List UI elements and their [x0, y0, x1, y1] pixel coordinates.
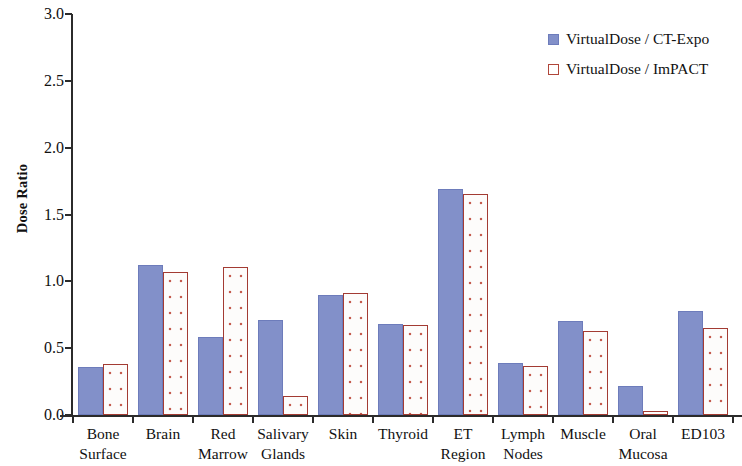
x-tick-label-line2: Mucosa — [605, 444, 681, 464]
x-tick-mark — [192, 415, 194, 423]
x-tick-label-line1: Muscle — [560, 425, 606, 442]
bar-group — [433, 14, 493, 415]
bar-series-ct-expo — [498, 363, 523, 415]
bar-series-ct-expo — [678, 311, 703, 415]
bar-series-ct-expo — [318, 295, 343, 415]
x-tick-mark — [132, 415, 134, 423]
bar-series-impact — [583, 331, 608, 415]
bar-series-impact — [223, 267, 248, 415]
x-tick-mark — [252, 415, 254, 423]
x-tick-mark — [72, 415, 74, 423]
bar-series-ct-expo — [78, 367, 103, 415]
y-tick-mark — [65, 13, 72, 15]
y-tick-label: 0.5 — [20, 340, 64, 356]
y-axis-tick-labels: 0.00.51.01.52.02.53.0 — [20, 0, 64, 466]
x-tick-label-line2: Surface — [65, 444, 141, 464]
bar-series-ct-expo — [198, 337, 223, 415]
bar-pair — [433, 14, 493, 415]
bar-group — [373, 14, 433, 415]
y-tick-mark — [65, 80, 72, 82]
bar-series-ct-expo — [378, 324, 403, 415]
x-tick-mark — [432, 415, 434, 423]
y-tick-mark — [65, 414, 72, 416]
bar-series-impact — [463, 194, 488, 415]
bar-pair — [73, 14, 133, 415]
y-tick-mark — [65, 147, 72, 149]
x-tick-mark — [552, 415, 554, 423]
bar-series-impact — [163, 272, 188, 415]
bar-group — [193, 14, 253, 415]
bar-series-ct-expo — [258, 320, 283, 415]
y-tick-mark — [65, 347, 72, 349]
x-tick-label-line1: Oral — [629, 425, 657, 442]
x-tick-label-line2: Glands — [245, 444, 321, 464]
x-tick-label: ED103 — [665, 424, 741, 444]
x-tick-label-line2: Nodes — [485, 444, 561, 464]
bar-series-ct-expo — [558, 321, 583, 415]
bar-pair — [253, 14, 313, 415]
bar-series-impact — [103, 364, 128, 415]
bar-series-ct-expo — [438, 189, 463, 415]
bar-pair — [373, 14, 433, 415]
y-tick-label: 2.5 — [20, 73, 64, 89]
legend-item: VirtualDose / ImPACT — [548, 54, 742, 84]
x-axis-tick-labels: BoneSurfaceBrainRedMarrowSalivaryGlandsS… — [73, 424, 733, 466]
x-tick-label-line1: Lymph — [501, 425, 545, 442]
bar-series-impact — [343, 293, 368, 415]
bar-group — [493, 14, 553, 415]
bar-series-impact — [283, 396, 308, 415]
bar-pair — [193, 14, 253, 415]
bar-pair — [313, 14, 373, 415]
x-tick-mark — [312, 415, 314, 423]
bar-series-ct-expo — [618, 386, 643, 415]
y-tick-mark — [65, 214, 72, 216]
x-tick-label-line1: Brain — [146, 425, 180, 442]
y-tick-mark — [65, 280, 72, 282]
x-axis-line — [60, 415, 742, 417]
bar-series-ct-expo — [138, 265, 163, 415]
x-tick-mark — [732, 415, 734, 423]
y-tick-label: 2.0 — [20, 140, 64, 156]
legend-label: VirtualDose / CT-Expo — [566, 31, 709, 47]
y-tick-label: 0.0 — [20, 407, 64, 423]
legend-item: VirtualDose / CT-Expo — [548, 24, 742, 54]
x-tick-label-line1: Bone — [87, 425, 120, 442]
bar-pair — [493, 14, 553, 415]
y-tick-label: 1.5 — [20, 207, 64, 223]
bar-group — [313, 14, 373, 415]
x-tick-mark — [492, 415, 494, 423]
legend-swatch-ct-expo-icon — [548, 34, 559, 45]
x-tick-label-line1: ET — [454, 425, 473, 442]
bar-group — [133, 14, 193, 415]
x-tick-label-line1: ED103 — [681, 425, 725, 442]
y-tick-label: 1.0 — [20, 273, 64, 289]
legend-swatch-impact-icon — [548, 64, 559, 75]
bar-pair — [133, 14, 193, 415]
legend-label: VirtualDose / ImPACT — [566, 61, 708, 77]
bar-series-impact — [403, 325, 428, 415]
bar-group — [253, 14, 313, 415]
x-tick-label-line1: Thyroid — [378, 425, 428, 442]
bar-series-impact — [703, 328, 728, 415]
x-tick-label-line1: Salivary — [257, 425, 309, 442]
chart-legend: VirtualDose / CT-ExpoVirtualDose / ImPAC… — [548, 24, 742, 84]
y-tick-label: 3.0 — [20, 6, 64, 22]
x-tick-label-line1: Skin — [329, 425, 357, 442]
x-tick-mark — [372, 415, 374, 423]
bar-group — [73, 14, 133, 415]
x-tick-label-line1: Red — [211, 425, 236, 442]
x-tick-mark — [672, 415, 674, 423]
x-tick-mark — [612, 415, 614, 423]
bar-series-impact — [523, 366, 548, 415]
dose-ratio-bar-chart: Dose Ratio 0.00.51.01.52.02.53.0 BoneSur… — [0, 0, 742, 466]
